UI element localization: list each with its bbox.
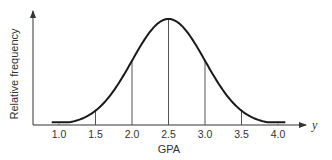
x-axis-label: GPA <box>158 143 181 155</box>
x-tick-label: 1.5 <box>88 128 103 140</box>
x-tick-labels: 1.01.52.02.53.03.54.0 <box>52 128 286 140</box>
y-axis-label: Relative frequency <box>8 28 20 120</box>
x-variable-label: y <box>311 118 318 132</box>
x-tick-label: 4.0 <box>271 128 286 140</box>
x-tick-label: 2.5 <box>161 128 176 140</box>
x-tick-label: 3.5 <box>234 128 249 140</box>
vertical-reference-lines <box>96 19 242 125</box>
chart: 1.01.52.02.53.03.54.0 Relative frequency… <box>0 0 332 160</box>
x-tick-label: 1.0 <box>52 128 67 140</box>
x-tick-label: 2.0 <box>125 128 140 140</box>
x-tick-label: 3.0 <box>198 128 213 140</box>
